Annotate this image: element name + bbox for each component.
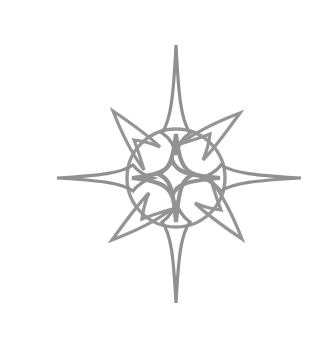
image-canvas (0, 0, 324, 338)
compass-rose-star-graphic (0, 0, 324, 338)
